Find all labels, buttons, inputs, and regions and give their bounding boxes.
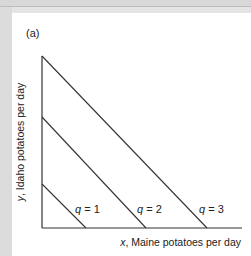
y-axis-variable: y — [14, 196, 26, 201]
y-axis-text: , Idaho potatoes per day — [14, 83, 26, 196]
isoquant-label-q2: q = 2 — [137, 203, 162, 215]
plot-area — [0, 0, 251, 256]
isoquant-label-q1: q = 1 — [75, 203, 100, 215]
x-axis-label: x, Maine potatoes per day — [120, 236, 241, 248]
q-value: = 1 — [81, 203, 100, 215]
q-value: = 2 — [143, 203, 162, 215]
isoquant-label-q3: q = 3 — [199, 203, 224, 215]
x-axis-text: , Maine potatoes per day — [125, 236, 241, 248]
y-axis-label: y, Idaho potatoes per day — [14, 83, 26, 202]
q-value: = 3 — [205, 203, 224, 215]
isoquant-q3 — [42, 56, 207, 228]
